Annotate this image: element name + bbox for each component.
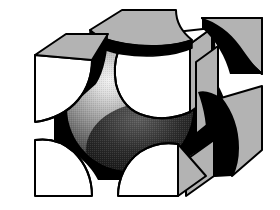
figure-container: Sphere–Cube Constructive Solid Geometry … xyxy=(0,0,280,210)
csg-sphere-cube-figure: Sphere–Cube Constructive Solid Geometry … xyxy=(0,0,280,210)
